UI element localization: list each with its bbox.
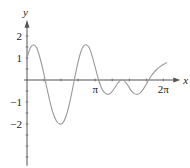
x-tick-label: π [92,83,98,95]
y-tick-label: −2 [10,118,22,130]
ticks-layer [26,36,164,157]
x-axis-label: x [182,74,188,86]
function-plot: x y π2π21−1−2 [0,0,190,168]
y-axis-label: y [22,6,28,18]
y-tick-label: 1 [17,52,23,64]
y-tick-label: 2 [17,30,23,42]
y-axis-arrow-icon [25,20,30,28]
x-axis-arrow-icon [173,78,180,83]
x-tick-label: 2π [158,83,170,95]
y-tick-label: −1 [10,96,22,108]
